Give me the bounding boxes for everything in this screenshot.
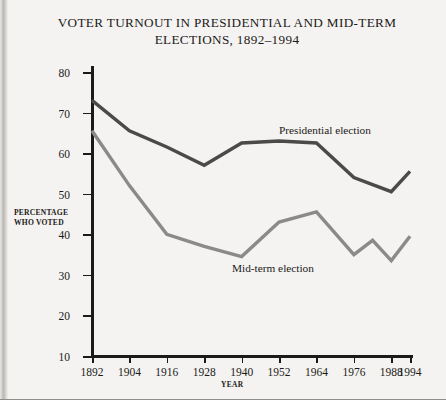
y-axis-title-line-1: PERCENTAGE: [14, 208, 90, 218]
y-tick-40: 40: [83, 234, 91, 236]
y-axis-title: PERCENTAGE WHO VOTED: [14, 208, 90, 227]
x-tick-label-1904: 1904: [118, 366, 141, 378]
y-axis-title-line-2: WHO VOTED: [14, 218, 90, 228]
chart-title-line-1: VOTER TURNOUT IN PRESIDENTIAL AND MID-TE…: [8, 14, 446, 31]
chart-title-line-2: ELECTIONS, 1892–1994: [8, 31, 446, 48]
y-tick-60: 60: [83, 153, 91, 155]
series-line-presidential: [92, 100, 410, 191]
chart-title: VOTER TURNOUT IN PRESIDENTIAL AND MID-TE…: [8, 14, 446, 48]
y-tick-20: 20: [83, 315, 91, 317]
y-tick-30: 30: [83, 275, 91, 277]
x-tick-label-1892: 1892: [81, 366, 104, 378]
x-tick-label-1994: 1994: [399, 366, 422, 378]
y-tick-label-10: 10: [59, 351, 71, 363]
y-tick-label-70: 70: [59, 108, 71, 120]
y-tick-label-40: 40: [59, 229, 71, 241]
series-label-presidential: Presidential election: [279, 124, 371, 136]
x-tick-1952: [279, 355, 281, 363]
x-axis-title: YEAR: [221, 380, 244, 389]
x-tick-label-1976: 1976: [342, 366, 365, 378]
x-tick-1994: [410, 355, 412, 363]
x-tick-1976: [354, 355, 356, 363]
x-tick-1892: [92, 355, 94, 363]
x-tick-label-1928: 1928: [193, 366, 216, 378]
x-tick-1904: [129, 355, 131, 363]
y-tick-label-20: 20: [59, 310, 71, 322]
page-bottom-edge: [0, 399, 446, 417]
y-tick-70: 70: [83, 113, 91, 115]
y-tick-label-30: 30: [59, 270, 71, 282]
y-tick-label-80: 80: [59, 67, 71, 79]
chart-page: VOTER TURNOUT IN PRESIDENTIAL AND MID-TE…: [0, 0, 446, 417]
series-label-midterm: Mid-term election: [232, 262, 314, 274]
x-tick-1928: [204, 355, 206, 363]
x-tick-label-1940: 1940: [230, 366, 253, 378]
y-tick-label-60: 60: [59, 148, 71, 160]
x-tick-1988: [391, 355, 393, 363]
x-tick-label-1964: 1964: [305, 366, 328, 378]
series-line-midterm: [92, 131, 410, 261]
plot-area: 1020304050607080 18921904191619281940195…: [92, 72, 410, 356]
x-tick-label-1952: 1952: [268, 366, 291, 378]
x-tick-1964: [316, 355, 318, 363]
y-tick-80: 80: [83, 72, 91, 74]
series-canvas: [92, 72, 410, 356]
x-tick-1916: [167, 355, 169, 363]
y-tick-10: 10: [83, 356, 91, 358]
page-gutter-shadow: [0, 0, 8, 400]
x-tick-label-1916: 1916: [155, 366, 178, 378]
y-tick-50: 50: [83, 194, 91, 196]
y-tick-label-50: 50: [59, 189, 71, 201]
x-tick-1940: [242, 355, 244, 363]
